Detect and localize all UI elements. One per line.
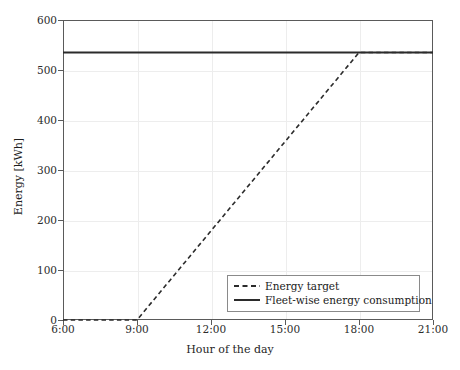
- chart-figure: 600 500 400 300 200 100 0 6:00 9:00 12:0…: [0, 0, 460, 370]
- solid-line-icon: [234, 295, 260, 305]
- chart-legend: Energy target Fleet-wise energy consumpt…: [227, 275, 420, 312]
- dashed-line-icon: [234, 281, 260, 291]
- legend-item-fleet-wise-energy-consumption: Fleet-wise energy consumption: [234, 293, 413, 307]
- legend-item-energy-target: Energy target: [234, 279, 413, 293]
- legend-label-fleet-wise-energy-consumption: Fleet-wise energy consumption: [265, 295, 432, 306]
- legend-label-energy-target: Energy target: [265, 281, 339, 292]
- series-layer: [0, 0, 460, 370]
- x-axis-label: Hour of the day: [0, 343, 460, 356]
- y-axis-label: Energy [kWh]: [12, 107, 25, 247]
